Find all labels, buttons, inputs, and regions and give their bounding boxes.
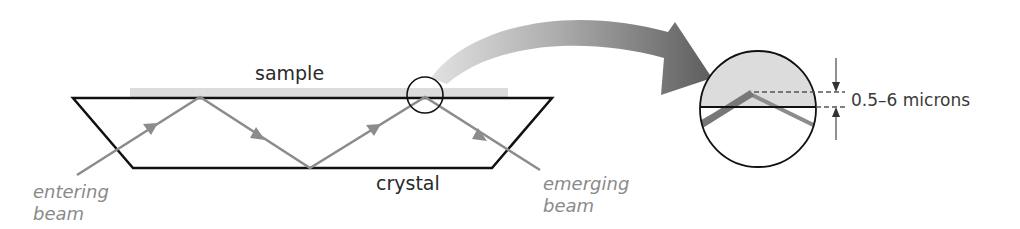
arrowhead-icon [366,124,381,136]
sample-layer [130,88,508,98]
zoom-arrow [431,20,712,95]
arrowhead-icon [250,127,265,140]
entering-beam-label: entering [33,181,109,202]
crystal-label: crystal [376,172,440,194]
entering-beam-label-2: beam [33,203,84,224]
sample-label: sample [255,62,324,84]
arrowhead-icon [143,123,158,135]
beam-arrowheads [143,123,487,141]
beam-path [77,97,540,175]
depth-arrow-icons [832,82,840,117]
depth-label: 0.5–6 microns [851,90,970,110]
emerging-beam-label-2: beam [543,195,594,216]
atr-diagram: sample crystal entering beam emerging be… [0,0,1020,229]
emerging-beam-label: emerging [543,173,629,194]
magnified-view [690,40,840,167]
